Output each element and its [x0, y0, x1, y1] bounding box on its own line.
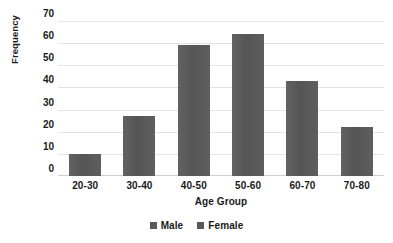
bar	[341, 127, 373, 176]
plot-area	[58, 21, 384, 176]
bar-slot	[58, 21, 112, 176]
y-axis-tick-labels: 70 60 50 40 30 20 10 0	[26, 14, 54, 176]
y-axis-tick-label: 50	[26, 53, 54, 63]
x-axis-tick-labels: 20-30 30-40 40-50 50-60 60-70 70-80	[58, 180, 384, 191]
y-axis-tick-label: 60	[26, 31, 54, 41]
bar-chart: Frequency 70 60 50 40 30 20 10 0	[0, 0, 393, 243]
bar-slot	[330, 21, 384, 176]
x-axis-tick-label: 70-80	[330, 180, 384, 191]
y-axis-title: Frequency	[9, 0, 23, 64]
legend-item-male[interactable]: Male	[150, 220, 184, 231]
bar	[286, 81, 318, 176]
y-axis-tick-label: 20	[26, 120, 54, 130]
bar-slot	[112, 21, 166, 176]
legend-swatch-icon	[197, 222, 204, 229]
y-axis-tick-label: 30	[26, 98, 54, 108]
bar-slot	[167, 21, 221, 176]
legend-swatch-icon	[150, 222, 157, 229]
x-axis-tick-label: 40-50	[167, 180, 221, 191]
y-axis-tick-label: 40	[26, 75, 54, 85]
x-axis-tick-label: 50-60	[221, 180, 275, 191]
bar	[232, 34, 264, 176]
legend-item-female[interactable]: Female	[197, 220, 243, 231]
x-axis-tick-label: 20-30	[58, 180, 112, 191]
x-axis-tick-label: 30-40	[112, 180, 166, 191]
bar	[178, 45, 210, 176]
x-axis-tick-label: 60-70	[275, 180, 329, 191]
y-axis-tick-label: 70	[26, 9, 54, 19]
legend-label: Male	[161, 220, 184, 231]
legend-label: Female	[208, 220, 243, 231]
bar-slot	[275, 21, 329, 176]
y-axis-tick-label: 10	[26, 142, 54, 152]
x-axis-title: Age Group	[58, 196, 384, 207]
bar-series-male	[58, 21, 384, 176]
chart-legend: Male Female	[0, 220, 393, 231]
bar	[69, 154, 101, 176]
y-axis-tick-label: 0	[26, 164, 54, 174]
bar	[123, 116, 155, 176]
bar-slot	[221, 21, 275, 176]
